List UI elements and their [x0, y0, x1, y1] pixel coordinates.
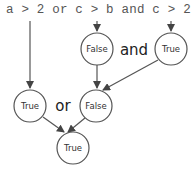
diagram-graphics: False True True False True and or: [0, 0, 196, 171]
node-false-top-label: False: [86, 44, 107, 54]
node-true-left-label: True: [20, 101, 39, 111]
evaluation-diagram: a > 2 or c > b and c > 2: [0, 0, 196, 171]
edge-true-top-to-false-mid: [103, 60, 158, 90]
edge-false-mid-to-bottom: [68, 118, 85, 132]
node-false-mid-label: False: [85, 101, 106, 111]
node-true-top-label: True: [161, 44, 180, 54]
operator-or: or: [55, 97, 71, 115]
operator-and: and: [120, 41, 148, 59]
node-true-bottom-label: True: [63, 143, 82, 153]
edge-true-left-to-bottom: [43, 117, 64, 132]
